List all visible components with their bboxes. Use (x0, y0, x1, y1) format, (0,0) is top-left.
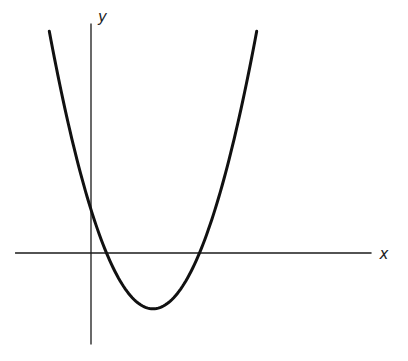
parabola-curve (49, 31, 256, 308)
y-axis-label: y (97, 8, 108, 26)
parabola-diagram: x y (0, 0, 408, 361)
x-axis-label: x (379, 245, 389, 263)
